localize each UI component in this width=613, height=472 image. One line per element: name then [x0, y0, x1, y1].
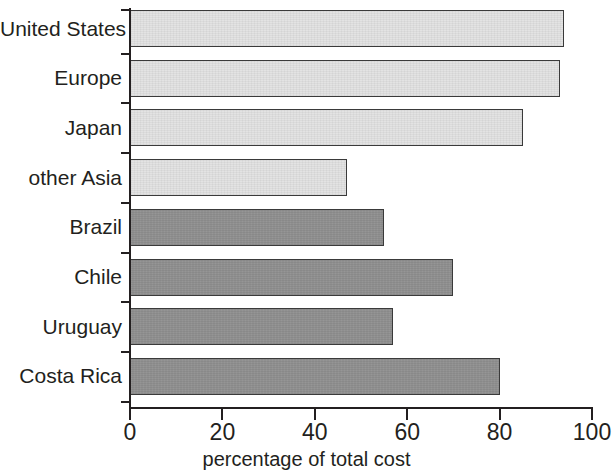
x-tick-label: 20 [192, 421, 252, 444]
category-label-europe: Europe [0, 67, 122, 88]
x-tick-label: 0 [100, 421, 160, 444]
bar-chart: United StatesEuropeJapanother AsiaBrazil… [0, 0, 613, 472]
bar-costa-rica [130, 358, 500, 395]
category-label-united-states: United States [0, 18, 122, 39]
bar-brazil [130, 209, 384, 246]
category-label-uruguay: Uruguay [0, 316, 122, 337]
bar-other-asia [130, 159, 347, 196]
bar-japan [130, 109, 523, 146]
bar-united-states [130, 10, 564, 47]
x-tick-label: 100 [562, 421, 613, 444]
bar-europe [130, 60, 560, 97]
bar-uruguay [130, 308, 393, 345]
category-label-japan: Japan [0, 117, 122, 138]
bar-rect [130, 159, 347, 196]
x-tick-label: 40 [285, 421, 345, 444]
x-tick-label: 80 [470, 421, 530, 444]
bar-rect [130, 109, 523, 146]
x-axis-title: percentage of total cost [0, 449, 613, 469]
bar-rect [130, 60, 560, 97]
y-axis-line [129, 8, 131, 409]
category-label-costa-rica: Costa Rica [0, 365, 122, 386]
x-tick-label: 60 [377, 421, 437, 444]
bar-chile [130, 259, 453, 296]
category-label-brazil: Brazil [0, 216, 122, 237]
category-label-chile: Chile [0, 266, 122, 287]
bar-rect [130, 358, 500, 395]
bar-rect [130, 10, 564, 47]
bar-rect [130, 209, 384, 246]
category-label-other-asia: other Asia [0, 167, 122, 188]
bar-rect [130, 259, 453, 296]
bar-rect [130, 308, 393, 345]
x-axis-line [129, 407, 593, 409]
